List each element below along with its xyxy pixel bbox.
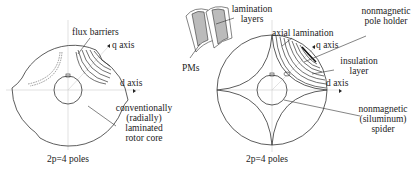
core-label: conventionally (radially) laminated roto… [110,103,178,143]
pole-holder-label: nonmagnetic pole holder [356,6,416,26]
lamination-inset [186,7,234,58]
left-q-axis-label: q axis [112,40,134,50]
left-d-arrow [133,89,136,93]
insulation-leader [312,70,334,74]
flux-barriers-label: flux barriers [72,27,119,37]
axial-lamination-leader [282,38,292,46]
right-poles-label: 2p=4 poles [246,154,288,164]
spider-label: nonmagnetic (siluminum) spider [352,104,414,134]
right-d-arrow [339,89,342,93]
left-d-axis-label: d axis [120,78,142,88]
right-d-axis-label: d axis [326,78,348,88]
left-poles-label: 2p=4 poles [47,154,89,164]
flux-barriers [76,50,111,84]
pms-label: PMs [182,63,199,73]
right-q-axis-label: q axis [316,40,338,50]
lamination-layers-label: lamination layers [230,4,274,24]
insulation-layer-label: insulation layer [334,56,384,76]
axial-lamination-label: axial lamination [272,28,333,38]
